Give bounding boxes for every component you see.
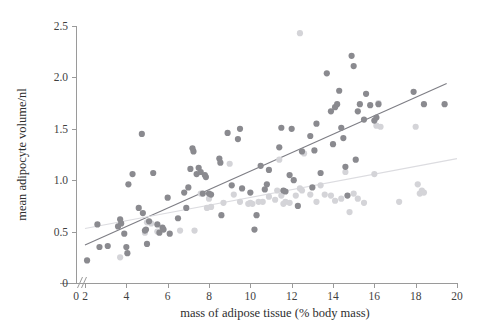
data-point xyxy=(237,126,243,132)
data-point xyxy=(203,174,209,180)
x-tick-label: 16 xyxy=(369,290,381,302)
data-point xyxy=(413,124,419,130)
x-tick-label: 2 xyxy=(82,290,88,302)
data-point xyxy=(218,212,224,218)
data-point xyxy=(375,101,381,107)
data-point xyxy=(396,199,402,205)
data-point xyxy=(118,220,124,226)
data-point xyxy=(278,125,284,131)
data-point xyxy=(322,191,328,197)
x-tick-label: 10 xyxy=(245,290,257,302)
scatter-plot-figure: 00.51.01.52.02.502468101214161820mass of… xyxy=(0,0,485,329)
data-point xyxy=(299,148,305,154)
x-tick-label: 4 xyxy=(123,290,129,302)
data-point xyxy=(318,170,324,176)
data-point xyxy=(237,199,243,205)
data-point xyxy=(231,191,237,197)
data-point xyxy=(272,197,278,203)
data-point xyxy=(247,189,253,195)
data-point xyxy=(249,201,255,207)
data-point xyxy=(361,116,367,122)
data-point xyxy=(260,199,266,205)
data-point xyxy=(336,88,342,94)
data-point xyxy=(266,194,272,200)
data-point xyxy=(287,200,293,206)
data-point xyxy=(363,91,369,97)
data-point xyxy=(346,209,352,215)
y-tick-label: 1.5 xyxy=(54,123,69,135)
data-points-layer xyxy=(84,30,448,263)
data-point xyxy=(146,218,152,224)
data-point xyxy=(276,157,282,163)
data-point xyxy=(330,141,336,147)
y-tick-label: 2.0 xyxy=(54,71,69,83)
x-tick-label: 20 xyxy=(451,290,463,302)
data-point xyxy=(200,190,206,196)
data-point xyxy=(276,144,282,150)
data-point xyxy=(355,108,361,114)
data-point xyxy=(84,257,90,263)
y-tick-label: 1.0 xyxy=(54,174,69,186)
data-point xyxy=(129,171,135,177)
data-point xyxy=(208,204,214,210)
data-point xyxy=(351,190,357,196)
data-point xyxy=(340,135,346,141)
data-point xyxy=(177,227,183,233)
data-point xyxy=(313,121,319,127)
data-point xyxy=(208,191,214,197)
data-point xyxy=(229,182,235,188)
data-point xyxy=(220,200,226,206)
data-point xyxy=(344,193,350,199)
data-point xyxy=(295,203,301,209)
y-axis-title: mean adipocyte volume/nl xyxy=(15,88,29,221)
data-point xyxy=(239,185,245,191)
data-point xyxy=(274,187,280,193)
data-point xyxy=(355,196,361,202)
trend-lines-layer xyxy=(85,84,457,245)
data-point xyxy=(373,114,379,120)
data-point xyxy=(94,221,100,227)
data-point xyxy=(253,212,259,218)
data-point xyxy=(367,102,373,108)
data-point xyxy=(334,101,340,107)
data-point xyxy=(282,188,288,194)
data-point xyxy=(217,160,223,166)
x-tick-label: 14 xyxy=(327,290,339,302)
data-point xyxy=(190,148,196,154)
data-point xyxy=(311,147,317,153)
data-point xyxy=(191,227,197,233)
data-point xyxy=(307,133,313,139)
dark-series-points xyxy=(84,53,448,264)
data-point xyxy=(154,221,160,227)
data-point xyxy=(299,187,305,193)
data-point xyxy=(264,181,270,187)
data-point xyxy=(309,184,315,190)
data-point xyxy=(415,181,421,187)
data-point xyxy=(297,30,303,36)
data-point xyxy=(125,181,131,187)
data-point xyxy=(421,101,427,107)
data-point xyxy=(342,164,348,170)
data-point xyxy=(227,161,233,167)
data-point xyxy=(150,170,156,176)
axes-layer xyxy=(60,26,458,288)
data-point xyxy=(187,166,193,172)
data-point xyxy=(332,198,338,204)
data-point xyxy=(442,101,448,107)
data-point xyxy=(167,231,173,237)
data-point xyxy=(251,226,257,232)
data-point xyxy=(421,189,427,195)
data-point xyxy=(266,167,272,173)
data-point xyxy=(258,163,264,169)
data-point xyxy=(140,210,146,216)
plot-canvas: 00.51.01.52.02.502468101214161820mass of… xyxy=(0,0,485,329)
data-point xyxy=(185,184,191,190)
x-tick-label: 0 xyxy=(73,290,79,302)
data-point xyxy=(411,89,417,95)
data-point xyxy=(183,205,189,211)
data-point xyxy=(324,70,330,76)
dark-trend-line xyxy=(85,84,447,245)
data-point xyxy=(328,193,334,199)
data-point xyxy=(165,195,171,201)
data-point xyxy=(307,191,313,197)
